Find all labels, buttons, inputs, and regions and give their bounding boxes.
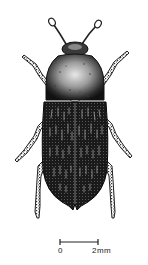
scale-bar-start-label: 0 — [58, 247, 63, 255]
head-highlight — [68, 44, 82, 50]
right-antenna — [82, 26, 96, 44]
pronotum — [46, 54, 104, 100]
antennae — [54, 25, 96, 44]
scale-bar-end-label: 2mm — [92, 247, 111, 255]
scale-bar — [60, 239, 98, 245]
left-antenna — [54, 25, 66, 44]
beetle-illustration — [0, 0, 148, 265]
